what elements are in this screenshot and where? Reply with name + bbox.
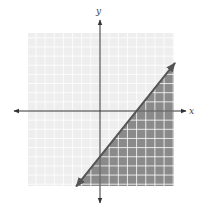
x-axis-label: x — [189, 106, 194, 116]
inequality-chart: x y — [0, 0, 202, 211]
y-axis-label: y — [95, 6, 102, 16]
